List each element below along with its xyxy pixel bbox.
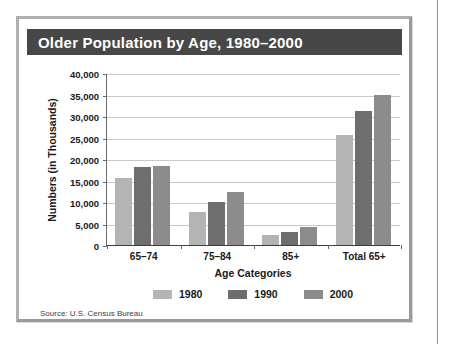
- bar-1990-6574: [134, 167, 151, 245]
- chart-title-bar: Older Population by Age, 1980–2000: [27, 29, 402, 55]
- y-axis-tick-label: 25,000: [70, 133, 99, 144]
- bar-group: [189, 74, 244, 245]
- legend-swatch-1990: [228, 290, 247, 299]
- y-axis-tick-label: 20,000: [70, 155, 99, 166]
- y-axis-tick-label: 5,000: [75, 219, 99, 230]
- bar-group: [115, 74, 170, 245]
- bar-1980-85+: [262, 235, 279, 245]
- legend-swatch-2000: [304, 290, 323, 299]
- legend-label-1990: 1990: [254, 288, 277, 300]
- y-axis-tick: [103, 225, 107, 226]
- bar-1980-7584: [189, 212, 206, 245]
- x-axis-category-label: Total 65+: [343, 251, 386, 262]
- figure-frame: Older Population by Age, 1980–2000 Numbe…: [16, 16, 412, 322]
- x-axis-category-label: 85+: [282, 251, 299, 262]
- bar-2000-7584: [227, 192, 244, 245]
- y-axis-tick: [103, 74, 107, 75]
- y-axis-tick: [103, 96, 107, 97]
- y-axis-tick: [103, 160, 107, 161]
- chart-legend: 198019902000: [106, 288, 400, 300]
- page-margin-rule: [437, 0, 438, 344]
- x-axis-title: Age Categories: [106, 267, 400, 279]
- x-axis-tick: [401, 245, 402, 249]
- x-axis-category-label: 65–74: [130, 251, 158, 262]
- bar-1980-6574: [115, 178, 132, 245]
- legend-label-1980: 1980: [179, 288, 202, 300]
- x-axis-category-label: 75–84: [203, 251, 231, 262]
- plot-area: 40,00035,00030,00025,00020,00015,00010,0…: [106, 74, 400, 246]
- y-axis-title: Numbers (in Thousands): [44, 74, 60, 246]
- bar-2000-6574: [153, 166, 170, 245]
- x-axis-tick: [107, 245, 108, 249]
- bar-1990-85+: [281, 232, 298, 245]
- bar-2000-85+: [300, 227, 317, 245]
- x-axis-tick: [254, 245, 255, 249]
- figure-inner-panel: Older Population by Age, 1980–2000 Numbe…: [19, 19, 409, 319]
- x-axis-tick: [181, 245, 182, 249]
- legend-label-2000: 2000: [330, 288, 353, 300]
- bar-2000-Total65+: [374, 95, 391, 245]
- y-axis-tick-label: 15,000: [70, 176, 99, 187]
- source-note: Source: U.S. Census Bureau: [40, 309, 143, 318]
- chart-title: Older Population by Age, 1980–2000: [27, 34, 303, 51]
- bar-1980-Total65+: [336, 135, 353, 245]
- legend-swatch-1980: [153, 290, 172, 299]
- bar-1990-7584: [208, 202, 225, 245]
- legend-item-1990: 1990: [228, 288, 277, 300]
- bar-1990-Total65+: [355, 111, 372, 245]
- y-axis-tick-label: 35,000: [70, 90, 99, 101]
- legend-item-2000: 2000: [304, 288, 353, 300]
- y-axis-tick-label: 0: [94, 241, 99, 252]
- y-axis-tick: [103, 203, 107, 204]
- y-axis-tick: [103, 117, 107, 118]
- y-axis-tick-label: 30,000: [70, 112, 99, 123]
- legend-item-1980: 1980: [153, 288, 202, 300]
- y-axis-tick: [103, 182, 107, 183]
- x-axis-tick: [328, 245, 329, 249]
- y-axis-tick-label: 40,000: [70, 69, 99, 80]
- bar-group: [336, 74, 391, 245]
- y-axis-tick-label: 10,000: [70, 198, 99, 209]
- y-axis-tick: [103, 139, 107, 140]
- bar-group: [262, 74, 317, 245]
- y-axis-title-label: Numbers (in Thousands): [46, 98, 58, 222]
